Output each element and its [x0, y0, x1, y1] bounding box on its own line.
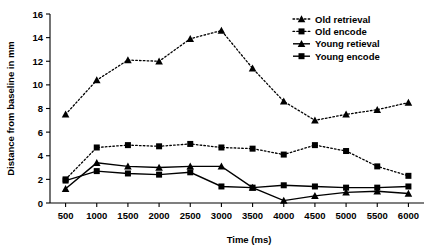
series-line	[66, 144, 409, 179]
chart-legend: Old retrievalOld encodeYoung retievalYou…	[293, 14, 380, 62]
series-line	[66, 171, 409, 188]
x-tick-label: 6000	[398, 210, 419, 221]
x-tick-label: 5500	[367, 210, 388, 221]
legend-item-3: Young encode	[293, 51, 380, 62]
x-tick-label: 4500	[304, 210, 325, 221]
y-tick-label: 4	[38, 150, 44, 161]
data-point-marker	[63, 178, 69, 184]
data-point-marker	[374, 163, 380, 169]
x-tick-label: 3000	[211, 210, 232, 221]
data-point-marker	[281, 182, 287, 188]
legend-label: Old encode	[315, 26, 367, 37]
legend-label: Young retieval	[315, 38, 380, 49]
x-tick-label: 1000	[86, 210, 107, 221]
x-tick-label: 2500	[180, 210, 201, 221]
data-point-marker	[156, 143, 162, 149]
data-point-marker	[93, 76, 101, 83]
legend-item-0: Old retrieval	[293, 14, 370, 25]
y-tick-label: 2	[38, 174, 43, 185]
data-point-marker	[312, 142, 318, 148]
data-point-marker	[281, 152, 287, 158]
y-tick-label: 14	[32, 32, 43, 43]
data-point-marker	[405, 99, 413, 106]
data-point-marker	[374, 185, 380, 191]
data-point-marker	[405, 183, 411, 189]
series-2	[62, 159, 412, 204]
legend-label: Old retrieval	[315, 14, 370, 25]
legend-item-2: Young retieval	[293, 38, 380, 49]
y-tick-label: 12	[32, 56, 43, 67]
data-point-marker	[187, 169, 193, 175]
data-point-marker	[124, 56, 132, 63]
data-point-marker	[405, 173, 411, 179]
data-point-marker	[249, 65, 257, 72]
x-tick-label: 500	[58, 210, 74, 221]
legend-item-1: Old encode	[293, 26, 367, 37]
legend-marker	[299, 28, 305, 34]
y-tick-label: 16	[32, 9, 43, 20]
chart-container: 0246810121416500100015002000250030003500…	[0, 0, 434, 251]
data-point-marker	[250, 146, 256, 152]
y-tick-label: 10	[32, 79, 43, 90]
data-point-marker	[125, 142, 131, 148]
data-point-marker	[218, 27, 226, 34]
data-point-marker	[250, 185, 256, 191]
x-tick-label: 2000	[149, 210, 170, 221]
x-tick-label: 5000	[336, 210, 357, 221]
y-tick-label: 0	[38, 198, 43, 209]
data-point-marker	[218, 144, 224, 150]
series-line	[66, 163, 409, 201]
data-point-marker	[218, 183, 224, 189]
data-point-marker	[343, 148, 349, 154]
x-tick-label: 3500	[242, 210, 263, 221]
x-tick-label: 4000	[273, 210, 294, 221]
x-tick-label: 1500	[117, 210, 138, 221]
x-axis-title: Time (ms)	[227, 234, 272, 245]
data-point-marker	[125, 170, 131, 176]
line-chart: 0246810121416500100015002000250030003500…	[0, 0, 434, 251]
y-tick-label: 6	[38, 127, 43, 138]
legend-marker	[299, 53, 305, 59]
y-axis-title: Distance from baseline in mm	[5, 41, 16, 176]
legend-label: Young encode	[315, 51, 380, 62]
series-1	[63, 141, 412, 182]
data-point-marker	[94, 168, 100, 174]
data-point-marker	[94, 144, 100, 150]
data-point-marker	[312, 183, 318, 189]
y-tick-label: 8	[38, 103, 43, 114]
data-point-marker	[187, 141, 193, 147]
data-point-marker	[343, 185, 349, 191]
data-point-marker	[156, 172, 162, 178]
series-3	[63, 168, 412, 191]
